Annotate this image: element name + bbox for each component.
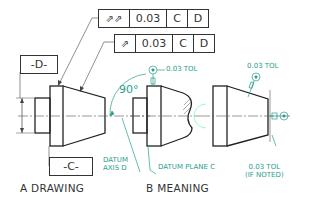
primary-datum: C xyxy=(173,35,194,52)
tol-bottom-line2: (IF NOTED) xyxy=(245,172,284,180)
primary-datum: C xyxy=(167,10,188,27)
datum-d-box: -D- xyxy=(20,55,58,74)
fcf-circular-runout: ⇗ 0.03 C D xyxy=(114,34,215,53)
tol-top-left-label: 0.03 TOL xyxy=(166,66,198,74)
total-runout-icon: ⇗⇗ xyxy=(99,10,130,27)
tol-bottom-label: 0.03 TOL (IF NOTED) xyxy=(245,164,284,179)
datum-axis-label: DATUM AXIS D xyxy=(103,157,128,172)
datum-c-box: -C- xyxy=(49,157,93,176)
tolerance-value: 0.03 xyxy=(130,10,167,27)
datum-axis-line2: AXIS D xyxy=(103,165,128,173)
tolerance-value: 0.03 xyxy=(136,35,173,52)
circular-runout-icon: ⇗ xyxy=(115,35,136,52)
angle-label: 90° xyxy=(119,84,139,95)
datum-plane-label: DATUM PLANE C xyxy=(158,164,215,172)
tol-top-right-label: 0.03 TOL xyxy=(247,63,279,71)
fcf-total-runout: ⇗⇗ 0.03 C D xyxy=(98,9,209,28)
caption-a: A DRAWING xyxy=(20,182,84,194)
secondary-datum: D xyxy=(188,10,208,27)
caption-b: B MEANING xyxy=(146,182,209,194)
secondary-datum: D xyxy=(194,35,214,52)
